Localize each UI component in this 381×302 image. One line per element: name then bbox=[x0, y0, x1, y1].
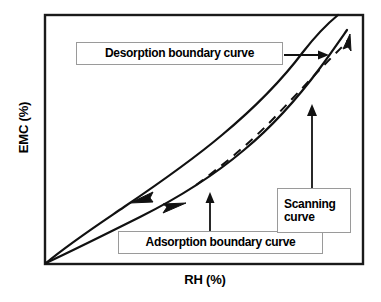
callout-scanning-label-line1: Scanning bbox=[284, 198, 336, 211]
y-axis-label: EMC (%) bbox=[16, 98, 31, 158]
callout-scanning-label-line2: curve bbox=[284, 211, 315, 224]
sorption-hysteresis-figure: EMC (%) RH (%) Desorption boundary curve… bbox=[0, 0, 381, 302]
callout-desorption-boundary-curve: Desorption boundary curve bbox=[76, 42, 283, 65]
callout-desorption-label: Desorption boundary curve bbox=[105, 47, 254, 60]
callout-adsorption-label: Adsorption boundary curve bbox=[146, 236, 296, 249]
callout-adsorption-boundary-curve: Adsorption boundary curve bbox=[118, 231, 323, 254]
callout-scanning-curve: Scanning curve bbox=[277, 188, 351, 233]
x-axis-label: RH (%) bbox=[150, 272, 260, 287]
